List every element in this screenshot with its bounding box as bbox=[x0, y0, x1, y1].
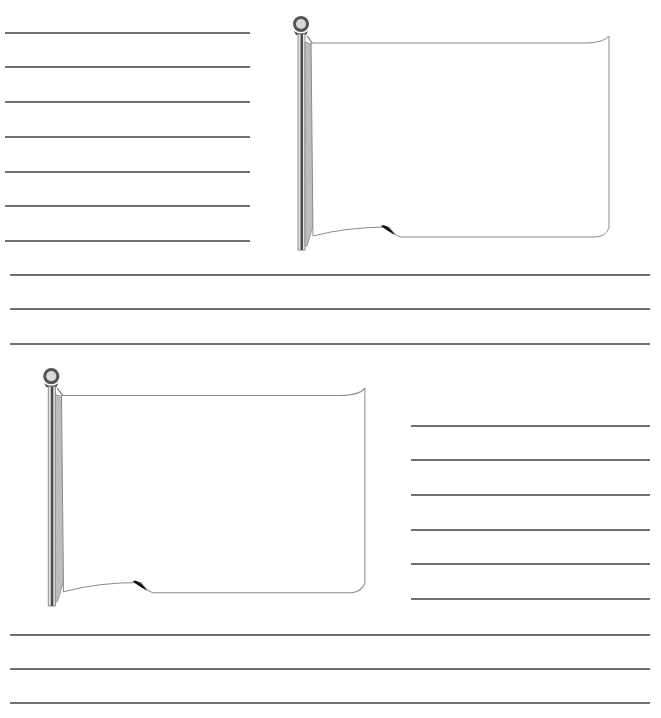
writing-line-bottom-short-1[interactable] bbox=[411, 425, 650, 427]
writing-line-top-full-3[interactable] bbox=[10, 343, 650, 345]
writing-line-top-short-7[interactable] bbox=[5, 240, 250, 242]
writing-line-bottom-short-4[interactable] bbox=[411, 529, 650, 531]
writing-line-bottom-short-5[interactable] bbox=[411, 563, 650, 565]
writing-line-top-short-6[interactable] bbox=[5, 205, 250, 207]
writing-line-bottom-full-2[interactable] bbox=[10, 668, 650, 670]
flag-outline bbox=[61, 388, 364, 592]
writing-line-top-short-5[interactable] bbox=[5, 171, 250, 173]
writing-line-bottom-short-3[interactable] bbox=[411, 494, 650, 496]
writing-line-top-short-3[interactable] bbox=[5, 101, 250, 103]
writing-line-top-short-2[interactable] bbox=[5, 66, 250, 68]
flag-outline bbox=[311, 36, 609, 237]
blank-flag-drawing-area-top[interactable] bbox=[285, 14, 615, 254]
writing-line-top-short-1[interactable] bbox=[5, 32, 250, 34]
writing-line-bottom-short-2[interactable] bbox=[411, 459, 650, 461]
writing-line-bottom-full-1[interactable] bbox=[10, 634, 650, 636]
writing-line-top-short-4[interactable] bbox=[5, 136, 250, 138]
writing-line-bottom-short-6[interactable] bbox=[411, 598, 650, 600]
writing-line-bottom-full-3[interactable] bbox=[10, 702, 650, 704]
blank-flag-drawing-area-bottom[interactable] bbox=[35, 366, 371, 610]
writing-line-top-full-2[interactable] bbox=[10, 308, 650, 310]
writing-line-top-full-1[interactable] bbox=[10, 274, 650, 276]
